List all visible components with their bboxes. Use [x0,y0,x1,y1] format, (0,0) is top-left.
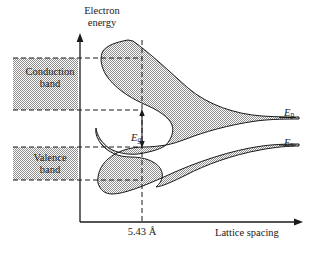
band-gap-label: Eg [131,132,141,145]
valence-band-label: Valence band [22,152,78,176]
level-es-subscript: s [290,140,293,149]
x-axis-label: Lattice spacing [215,227,279,239]
conduction-band-label: Conduction band [22,66,78,90]
y-axis-arrow-icon [77,33,84,42]
x-axis-tick-label: 5.43 Å [108,226,176,238]
valence-band-region [96,128,299,194]
conduction-band-label-line1: Conduction [26,66,75,77]
level-label-es: Es [284,137,293,150]
y-axis-label-line1: Electron [84,5,120,16]
y-axis-label-line2: energy [88,17,116,28]
band-gap-subscript: g [137,135,141,144]
band-gap-arrow-up-icon [139,109,144,116]
band-structure-figure: Electron energy Lattice spacing 5.43 Å C… [0,0,314,257]
conduction-band-label-line2: band [40,78,60,89]
x-axis-arrow-icon [294,219,303,226]
valence-band-label-line2: band [40,164,60,175]
diagram-canvas [0,0,314,257]
conduction-band-region [101,40,299,145]
level-label-ep: Ep [284,107,294,120]
y-axis-label: Electron energy [63,5,141,29]
valence-band-label-line1: Valence [33,152,66,163]
level-ep-subscript: p [290,110,294,119]
